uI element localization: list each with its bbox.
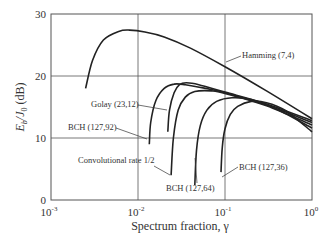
label-golay: Golay (23,12): [91, 99, 139, 109]
curve-golay-23-12: [168, 83, 312, 132]
label-hamming: Hamming (7,4): [242, 50, 295, 60]
y-axis-ticks: 0 10 20 30: [35, 8, 47, 206]
y-tick: 0: [41, 194, 47, 206]
pointer-bch36: [222, 167, 238, 177]
x-axis-label: Spectrum fraction, γ: [131, 219, 229, 233]
chart: 0 10 20 30 10-3 10-2 10-1 100 Spectrum f…: [0, 0, 333, 240]
x-tick: 100: [304, 205, 319, 218]
label-bch64: BCH (127,64): [166, 183, 215, 193]
x-tick: 10-1: [215, 205, 232, 218]
pointer-bch92: [116, 128, 147, 139]
x-tick: 10-3: [41, 205, 58, 218]
y-axis-label: Eb/J0 (dB): [13, 82, 29, 132]
y-tick: 20: [35, 70, 47, 82]
pointer-conv: [154, 166, 170, 175]
label-conv: Convolutional rate 1/2: [78, 155, 155, 165]
label-bch92: BCH (127,92): [68, 122, 117, 132]
x-tick: 10-2: [128, 205, 145, 218]
x-axis-ticks: 10-3 10-2 10-1 100: [41, 205, 319, 218]
y-tick: 30: [35, 8, 47, 20]
annotations: Hamming (7,4) Golay (23,12) BCH (127,92)…: [68, 50, 295, 193]
pointer-hamming: [226, 56, 241, 62]
y-tick: 10: [35, 132, 47, 144]
label-bch36: BCH (127,36): [239, 162, 288, 172]
